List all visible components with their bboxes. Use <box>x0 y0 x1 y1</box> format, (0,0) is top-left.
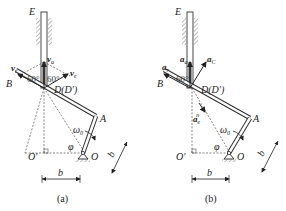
dim-b-slanted-label-a: b <box>105 150 117 159</box>
ground-a <box>76 159 90 162</box>
label-B-b: B <box>157 78 163 89</box>
svg-text:aa: aa <box>180 54 188 65</box>
svg-text:ω0: ω0 <box>220 124 230 136</box>
guide-left-a <box>36 18 40 45</box>
mechanism-diagram: E va vr ve 60° 60° B D(D <box>0 0 286 211</box>
caption-a: (a) <box>57 193 68 205</box>
label-O-a: O <box>91 151 98 162</box>
guide-right-a <box>48 18 52 45</box>
angle-phi-b: φ <box>214 141 220 152</box>
figure-b: E aa ar aC aen 60° B D(D′) A ω0 φ <box>157 6 278 205</box>
guide-right-b <box>194 18 198 45</box>
dim-b-slanted-label-b: b <box>255 149 267 158</box>
svg-text:ω0: ω0 <box>73 124 83 136</box>
guide-left-b <box>182 18 186 45</box>
crank-OA-a <box>83 116 96 153</box>
svg-text:vr: vr <box>11 63 18 74</box>
right-angle-mark-b <box>192 149 196 153</box>
crank-OA-b <box>229 118 250 153</box>
label-B-a: B <box>6 78 12 89</box>
angle-phi-a: φ <box>68 141 74 152</box>
ground-b <box>222 159 236 162</box>
angle-60-right-a: 60° <box>47 74 60 84</box>
dim-b-label-a: b <box>58 167 63 178</box>
label-E-a: E <box>28 6 35 17</box>
right-angle-mark-a <box>44 149 48 153</box>
svg-text:aC: aC <box>207 54 217 65</box>
label-O-b: O <box>237 151 244 162</box>
angle-60-b: 60° <box>176 74 189 84</box>
label-D-b: D(D′) <box>200 84 225 96</box>
label-Oprime-b: O′ <box>176 151 186 162</box>
svg-text:ve: ve <box>70 68 77 79</box>
dim-b-label-b: b <box>207 167 212 178</box>
svg-text:ar: ar <box>162 62 170 73</box>
label-D-a: D(D′) <box>53 84 78 96</box>
angle-60-left-a: 60° <box>27 74 40 84</box>
figure-a: E va vr ve 60° 60° B D(D <box>6 6 127 205</box>
svg-text:aen: aen <box>193 112 201 125</box>
caption-b: (b) <box>205 193 217 205</box>
label-A-a: A <box>99 113 107 124</box>
label-E-b: E <box>174 6 181 17</box>
vector-aen <box>199 103 205 112</box>
label-A-b: A <box>252 113 260 124</box>
label-Oprime-a: O′ <box>28 151 38 162</box>
svg-text:va: va <box>47 54 54 65</box>
